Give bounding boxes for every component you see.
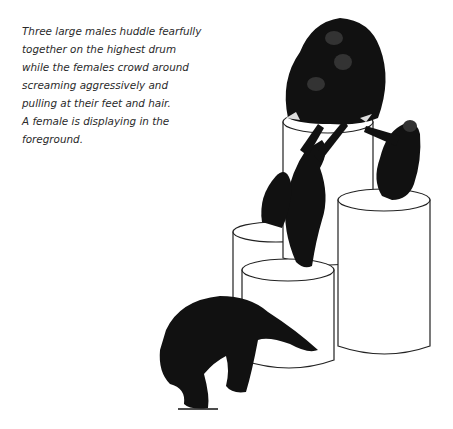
male-chimps-huddle <box>286 18 386 124</box>
chimpanzee-illustration <box>0 0 453 429</box>
drum-right <box>338 189 430 354</box>
